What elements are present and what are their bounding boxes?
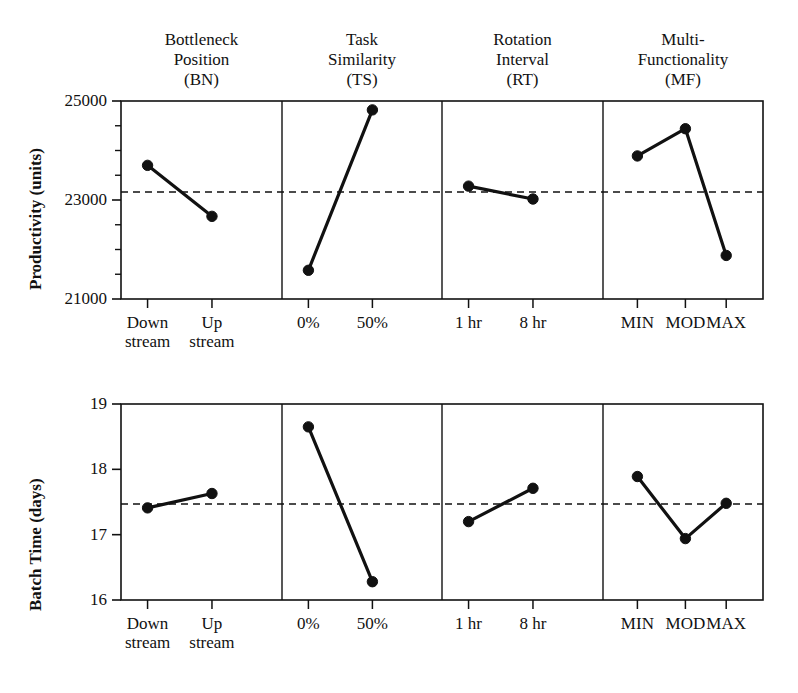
data-point-marker	[367, 577, 377, 587]
y-axis-tick-label: 25000	[65, 92, 108, 109]
data-point-marker	[528, 483, 538, 493]
series-line	[469, 488, 533, 521]
y-axis-tick-label: 23000	[65, 191, 108, 208]
data-point-marker	[632, 471, 642, 481]
y-axis-tick-label: 21000	[65, 290, 108, 307]
main-effects-figure: BottleneckPosition(BN)TaskSimilarity(TS)…	[0, 0, 798, 693]
y-axis-tick-label: 17	[90, 526, 107, 543]
series-line	[308, 110, 372, 270]
series-line	[637, 477, 726, 539]
data-point-marker	[142, 503, 152, 513]
data-point-marker	[303, 265, 313, 275]
x-axis-tick-label: MAX	[666, 614, 786, 633]
x-axis-tick-label: 8 hr	[473, 313, 593, 332]
data-point-marker	[721, 250, 731, 260]
data-point-marker	[303, 422, 313, 432]
x-axis-tick-label: MAX	[666, 313, 786, 332]
data-point-marker	[528, 194, 538, 204]
data-point-marker	[680, 124, 690, 134]
series-line	[148, 165, 212, 216]
data-point-marker	[207, 211, 217, 221]
data-point-marker	[367, 105, 377, 115]
data-point-marker	[680, 533, 690, 543]
data-point-marker	[721, 498, 731, 508]
data-point-marker	[142, 160, 152, 170]
y-axis-tick-label: 16	[90, 591, 107, 608]
batch-time-chart: Batch Time (days) 19181716DownstreamUpst…	[0, 370, 798, 693]
data-point-marker	[463, 181, 473, 191]
series-line	[148, 494, 212, 508]
y-axis-tick-label: 18	[90, 460, 107, 477]
data-point-marker	[632, 151, 642, 161]
y-axis-tick-label: 19	[90, 395, 107, 412]
data-point-marker	[463, 516, 473, 526]
x-axis-tick-label: 8 hr	[473, 614, 593, 633]
productivity-chart: BottleneckPosition(BN)TaskSimilarity(TS)…	[0, 0, 798, 370]
data-point-marker	[207, 488, 217, 498]
